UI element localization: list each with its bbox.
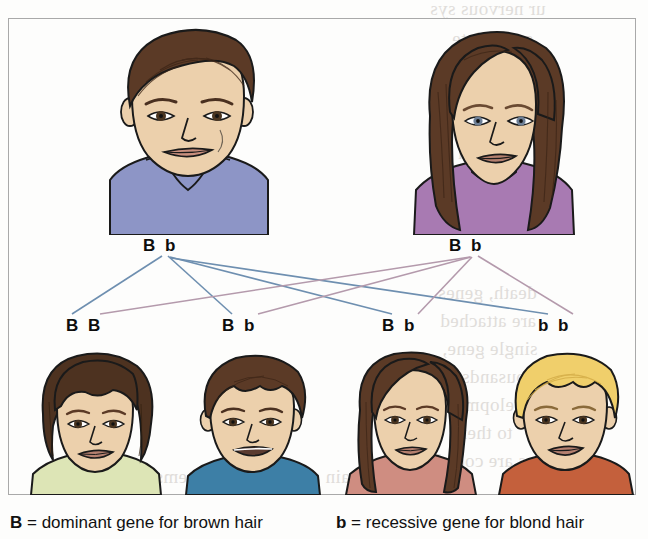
genotype-child-4: b b bbox=[538, 316, 571, 336]
legend-dominant: B = dominant gene for brown hair bbox=[10, 513, 263, 533]
legend-recessive-text: = recessive gene for blond hair bbox=[346, 513, 584, 532]
legend-recessive-allele: b bbox=[336, 513, 346, 532]
genotype-child-1: B B bbox=[66, 316, 103, 336]
figure-father bbox=[102, 20, 274, 235]
genotype-mother: B b bbox=[449, 236, 484, 256]
figure-child-3 bbox=[340, 348, 480, 495]
figure-mother bbox=[408, 22, 580, 235]
genotype-father: B b bbox=[143, 236, 178, 256]
legend-dominant-allele: B bbox=[10, 513, 22, 532]
legend-recessive: b = recessive gene for blond hair bbox=[336, 513, 584, 533]
bleed-through-line: ur nervous sys bbox=[430, 0, 545, 20]
genotype-child-2: B b bbox=[222, 316, 257, 336]
genotype-child-3: B b bbox=[382, 316, 417, 336]
legend-dominant-text: = dominant gene for brown hair bbox=[22, 513, 263, 532]
figure-child-4 bbox=[495, 348, 635, 495]
genetics-inheritance-diagram: ur nervous syss, mediateas you preany gi… bbox=[0, 0, 648, 539]
figure-child-2 bbox=[182, 348, 322, 495]
figure-child-1 bbox=[25, 348, 165, 495]
